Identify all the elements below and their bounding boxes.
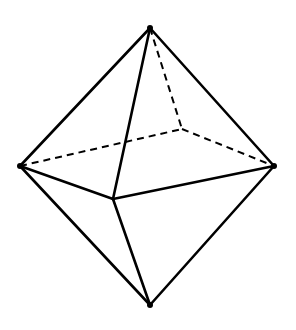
hidden-edge-left-back [20,129,182,166]
hidden-edge-back-right [182,129,274,166]
vertices [17,25,277,308]
edge-front-bottom [113,199,150,305]
octahedron-diagram [0,0,296,330]
visible-edges [20,28,274,305]
edge-top-front [113,28,150,199]
hidden-edges [20,28,274,166]
edge-top-right [150,28,274,166]
vertex-bottom [147,302,153,308]
vertex-left [17,163,23,169]
edge-left-bottom [20,166,150,305]
edge-top-left [20,28,150,166]
vertex-top [147,25,153,31]
hidden-edge-top-back [150,28,182,129]
vertex-right [271,163,277,169]
